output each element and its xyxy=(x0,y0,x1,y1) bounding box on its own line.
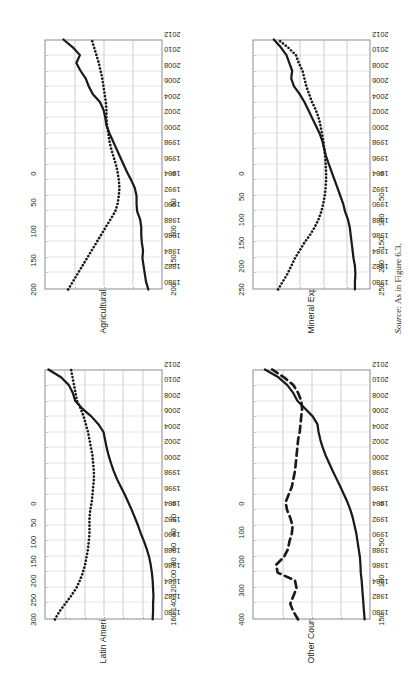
series-line-dotted xyxy=(68,39,119,289)
x-axis-tick-year: 2000 xyxy=(164,452,180,461)
x-axis-tick-year: 1992 xyxy=(372,514,388,523)
x-axis-tick-year: 1998 xyxy=(372,138,388,147)
x-axis-tick-year: 2012 xyxy=(164,29,180,38)
x-axis-tick-year: 1996 xyxy=(164,153,180,162)
x-axis-tick-year: 1988 xyxy=(164,545,180,554)
x-axis-tick-year: 2010 xyxy=(372,375,388,384)
x-axis-tick-year: 1998 xyxy=(164,468,180,477)
x-axis-tick-year: 1998 xyxy=(372,468,388,477)
y-axis-tick-left: 0 xyxy=(28,159,37,187)
x-axis-tick-year: 1986 xyxy=(164,231,180,240)
x-axis-tick-year: 1984 xyxy=(164,246,180,255)
x-axis-tick-year: 1996 xyxy=(164,483,180,492)
x-axis-tick-year: 1980 xyxy=(164,607,180,616)
x-axis-tick-year: 2010 xyxy=(164,375,180,384)
y-axis-tick-left: 200 xyxy=(28,275,37,303)
x-axis-tick-year: 2004 xyxy=(372,91,388,100)
x-axis-tick-year: 2004 xyxy=(372,421,388,430)
x-axis-tick-year: 1982 xyxy=(372,592,388,601)
x-axis-tick-year: 1988 xyxy=(372,215,388,224)
x-axis-tick-year: 1984 xyxy=(372,246,388,255)
x-axis-tick-year: 2004 xyxy=(164,421,180,430)
x-axis-tick-year: 1980 xyxy=(372,277,388,286)
x-axis-tick-year: 2000 xyxy=(164,122,180,131)
x-axis-tick-year: 2006 xyxy=(164,406,180,415)
x-axis-tick-year: 1994 xyxy=(164,169,180,178)
x-axis-tick-year: 1990 xyxy=(372,200,388,209)
x-axis-tick-year: 1996 xyxy=(372,153,388,162)
source-label: Source: xyxy=(392,305,402,333)
x-axis-tick-year: 2008 xyxy=(164,390,180,399)
y-axis-tick-left: 300 xyxy=(28,605,37,633)
x-axis-tick-year: 1984 xyxy=(164,576,180,585)
x-axis-tick-year: 2006 xyxy=(164,76,180,85)
x-axis-tick-year: 1988 xyxy=(164,215,180,224)
plot-area-latin-america xyxy=(44,369,162,619)
y-axis-tick-left: 300 xyxy=(236,576,245,604)
x-axis-tick-year: 1990 xyxy=(372,530,388,539)
x-axis-tick-year: 1996 xyxy=(372,483,388,492)
x-axis-tick-year: 2002 xyxy=(372,107,388,116)
series-layer xyxy=(44,39,162,289)
series-line-solid xyxy=(264,369,364,619)
source-text: As in Figure 6.3. xyxy=(392,243,402,304)
series-line-dotted xyxy=(54,369,93,619)
y-axis-tick-left: 100 xyxy=(28,217,37,245)
y-axis-tick-left: 200 xyxy=(236,547,245,575)
plot-area-mineral-exporters xyxy=(252,39,370,289)
x-axis-tick-year: 1990 xyxy=(164,530,180,539)
x-axis-tick-year: 1992 xyxy=(164,514,180,523)
x-axis-tick-year: 2006 xyxy=(372,406,388,415)
x-axis-tick-year: 2002 xyxy=(372,437,388,446)
x-axis-tick-year: 1986 xyxy=(372,561,388,570)
x-axis-tick-year: 2002 xyxy=(164,437,180,446)
y-axis-tick-left: 250 xyxy=(236,275,245,303)
plot-area-other-countries xyxy=(252,369,370,619)
y-axis-tick-left: 400 xyxy=(236,605,245,633)
x-axis-tick-year: 1994 xyxy=(372,499,388,508)
x-axis-tick-year: 2008 xyxy=(372,390,388,399)
x-axis-tick-year: 1986 xyxy=(372,231,388,240)
y-axis-tick-left: 0 xyxy=(236,489,245,517)
x-axis-tick-year: 2000 xyxy=(372,452,388,461)
x-axis-tick-year: 1988 xyxy=(372,545,388,554)
x-axis-tick-year: 2002 xyxy=(164,107,180,116)
y-axis-tick-left: 150 xyxy=(28,246,37,274)
plot-area-agricultural-exporters xyxy=(44,39,162,289)
series-line-solid xyxy=(48,369,153,619)
x-axis-tick-year: 2004 xyxy=(164,91,180,100)
figure-container: Latin America mean (18 countries) Agricu… xyxy=(0,0,409,681)
y-axis-tick-left: 100 xyxy=(236,518,245,546)
x-axis-tick-year: 1998 xyxy=(164,138,180,147)
series-layer xyxy=(252,369,370,619)
x-axis-tick-year: 2008 xyxy=(164,60,180,69)
x-axis-tick-year: 1994 xyxy=(372,169,388,178)
x-axis-tick-year: 2012 xyxy=(372,29,388,38)
x-axis-tick-year: 2010 xyxy=(164,45,180,54)
x-axis-tick-year: 1980 xyxy=(164,277,180,286)
x-axis-tick-year: 1990 xyxy=(164,200,180,209)
x-axis-tick-year: 1982 xyxy=(164,262,180,271)
source-note: Source: As in Figure 6.3. xyxy=(392,243,402,333)
x-axis-tick-year: 1994 xyxy=(164,499,180,508)
series-line-dashed xyxy=(272,369,302,619)
series-line-dotted xyxy=(277,39,325,289)
x-axis-tick-year: 1982 xyxy=(372,262,388,271)
series-layer xyxy=(252,39,370,289)
x-axis-tick-year: 2006 xyxy=(372,76,388,85)
x-axis-tick-year: 1992 xyxy=(164,184,180,193)
series-layer xyxy=(44,369,162,619)
x-axis-tick-year: 1992 xyxy=(372,184,388,193)
series-line-solid xyxy=(273,39,355,289)
x-axis-tick-year: 2000 xyxy=(372,122,388,131)
x-axis-tick-year: 1986 xyxy=(164,561,180,570)
x-axis-tick-year: 1982 xyxy=(164,592,180,601)
x-axis-tick-year: 2012 xyxy=(164,359,180,368)
x-axis-tick-year: 2008 xyxy=(372,60,388,69)
figure-rotator: Latin America mean (18 countries) Agricu… xyxy=(0,0,409,681)
x-axis-tick-year: 1984 xyxy=(372,576,388,585)
series-line-solid xyxy=(63,39,148,289)
x-axis-tick-year: 1980 xyxy=(372,607,388,616)
y-axis-tick-left: 50 xyxy=(28,188,37,216)
x-axis-tick-year: 2012 xyxy=(372,359,388,368)
